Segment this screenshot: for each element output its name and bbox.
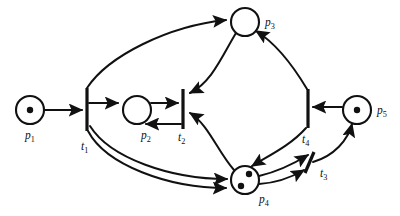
place-p4-token-2 [238, 183, 244, 189]
place-p5[interactable] [343, 96, 371, 124]
label-p1: p1 [24, 129, 35, 144]
label-t1: t1 [81, 140, 88, 155]
arc-t1-to-p3 [87, 20, 226, 88]
place-p4-circle[interactable] [231, 166, 259, 194]
label-p2: p2 [140, 129, 151, 144]
arc-t1-to-p4-strand-b [90, 126, 227, 179]
place-layer [16, 8, 371, 194]
petri-net-canvas: p1 p2 p3 p4 p5 t1 t2 t3 [0, 0, 400, 216]
label-p5: p5 [376, 104, 387, 119]
arc-layer [45, 20, 352, 188]
label-p4: p4 [258, 193, 269, 208]
place-p4[interactable] [231, 166, 259, 194]
arc-p3-to-t2 [190, 33, 236, 93]
place-p3-circle[interactable] [231, 8, 259, 36]
place-p1[interactable] [16, 96, 44, 124]
place-p2-circle[interactable] [123, 96, 151, 124]
place-p2[interactable] [123, 96, 151, 124]
transition-layer [87, 88, 314, 173]
petri-net-diagram: p1 p2 p3 p4 p5 t1 t2 t3 [0, 0, 400, 216]
place-p5-token-1 [354, 107, 360, 113]
label-p3: p3 [264, 16, 275, 31]
label-t3: t3 [320, 167, 327, 182]
arc-p4-to-t2 [190, 113, 234, 170]
arc-t1-to-p4-strand-a [88, 131, 226, 188]
place-p3[interactable] [231, 8, 259, 36]
place-p1-token-1 [27, 107, 33, 113]
place-p4-token-1 [246, 171, 252, 177]
arc-t3-to-p5 [313, 124, 352, 162]
label-t4: t4 [302, 133, 309, 148]
label-layer: p1 p2 p3 p4 p5 t1 t2 t3 [24, 16, 387, 208]
arc-t4-to-p3 [256, 31, 307, 89]
label-t2: t2 [178, 131, 185, 146]
arc-p4-to-t3-strand-a [259, 170, 304, 184]
